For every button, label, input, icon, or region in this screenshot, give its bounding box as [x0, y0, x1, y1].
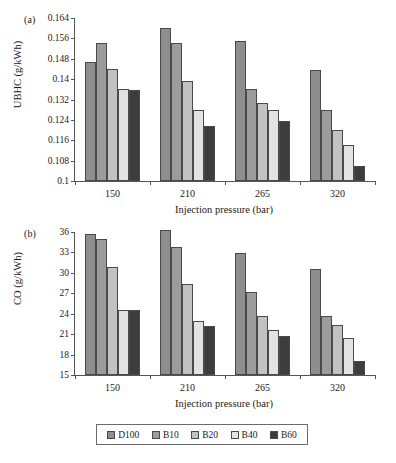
- legend-item-d100[interactable]: D100: [107, 430, 139, 440]
- bar-b60-210: [204, 326, 215, 375]
- figure-container: (a) UBHC (g/kWh) 0.10.1080.1160.1240.132…: [0, 0, 396, 463]
- x-axis-tick-mark: [75, 375, 76, 379]
- bar-b60-320: [354, 166, 365, 181]
- y-axis-tick-label: 0.156: [23, 33, 75, 43]
- y-axis-tick-mark: [71, 18, 75, 19]
- panel-b-x-axis-title: Injection pressure (bar): [74, 398, 374, 409]
- bar-b60-210: [204, 126, 215, 181]
- bar-b10-265: [246, 89, 257, 181]
- y-axis-tick-mark: [71, 355, 75, 356]
- legend-label: B10: [163, 430, 179, 440]
- bar-b20-265: [257, 316, 268, 375]
- bar-d100-150: [85, 62, 96, 181]
- bar-b40-265: [268, 330, 279, 375]
- x-axis-tick-label: 210: [180, 188, 195, 199]
- y-axis-tick-mark: [71, 273, 75, 274]
- bar-b20-210: [182, 284, 193, 375]
- bar-b60-265: [279, 121, 290, 181]
- bar-b10-150: [96, 43, 107, 181]
- bar-b60-150: [129, 310, 140, 375]
- chart-legend: D100B10B20B40B60: [96, 424, 308, 445]
- x-axis-tick-label: 265: [255, 382, 270, 393]
- bar-b20-320: [332, 325, 343, 375]
- x-axis-tick-mark: [150, 181, 151, 185]
- bar-d100-265: [235, 253, 246, 375]
- bar-d100-210: [160, 230, 171, 375]
- bar-d100-320: [310, 70, 321, 181]
- bar-d100-210: [160, 28, 171, 181]
- bar-b20-320: [332, 130, 343, 181]
- y-axis-tick-label: 0.116: [23, 135, 75, 145]
- panel-a-y-axis-title: UBHC (g/kWh): [12, 10, 23, 140]
- y-axis-tick-mark: [71, 38, 75, 39]
- legend-label: B60: [281, 430, 297, 440]
- y-axis-tick-mark: [71, 100, 75, 101]
- x-axis-tick-mark: [225, 375, 226, 379]
- x-axis-tick-mark: [75, 181, 76, 185]
- bar-b40-320: [343, 338, 354, 375]
- legend-swatch-icon: [152, 431, 160, 439]
- y-axis-tick-mark: [71, 293, 75, 294]
- y-axis-tick-mark: [71, 314, 75, 315]
- y-axis-tick-label: 0.14: [23, 74, 75, 84]
- chart-panel-b: (b) CO (g/kWh) 1518212427303336150210265…: [0, 228, 396, 413]
- legend-label: B20: [202, 430, 218, 440]
- legend-item-b10[interactable]: B10: [152, 430, 179, 440]
- chart-panel-a: (a) UBHC (g/kWh) 0.10.1080.1160.1240.132…: [0, 14, 396, 219]
- x-axis-tick-mark: [300, 375, 301, 379]
- bar-b10-150: [96, 239, 107, 375]
- x-axis-tick-label: 265: [255, 188, 270, 199]
- panel-a-x-axis-title: Injection pressure (bar): [74, 204, 374, 215]
- x-axis-tick-label: 320: [330, 188, 345, 199]
- legend-item-b20[interactable]: B20: [191, 430, 218, 440]
- x-axis-tick-mark: [375, 181, 376, 185]
- bar-b40-150: [118, 310, 129, 375]
- bar-b10-320: [321, 110, 332, 181]
- legend-swatch-icon: [191, 431, 199, 439]
- legend-item-b60[interactable]: B60: [270, 430, 297, 440]
- x-axis-tick-mark: [375, 375, 376, 379]
- bar-b20-150: [107, 69, 118, 181]
- y-axis-tick-mark: [71, 161, 75, 162]
- x-axis-tick-mark: [225, 181, 226, 185]
- bar-d100-150: [85, 234, 96, 375]
- y-axis-tick-mark: [71, 59, 75, 60]
- y-axis-tick-label: 0.1: [23, 176, 75, 186]
- y-axis-tick-label: 30: [23, 268, 75, 278]
- x-axis-tick-label: 320: [330, 382, 345, 393]
- y-axis-tick-label: 36: [23, 227, 75, 237]
- y-axis-tick-mark: [71, 140, 75, 141]
- bar-d100-265: [235, 41, 246, 181]
- y-axis-tick-mark: [71, 79, 75, 80]
- y-axis-tick-label: 0.164: [23, 13, 75, 23]
- y-axis-tick-label: 0.148: [23, 54, 75, 64]
- bar-b60-320: [354, 361, 365, 375]
- x-axis-tick-label: 150: [105, 382, 120, 393]
- bar-b40-210: [193, 110, 204, 181]
- y-axis-tick-label: 0.124: [23, 115, 75, 125]
- bar-b10-265: [246, 292, 257, 375]
- x-axis-tick-mark: [150, 375, 151, 379]
- y-axis-tick-label: 33: [23, 247, 75, 257]
- bar-b40-265: [268, 110, 279, 181]
- bar-b40-210: [193, 321, 204, 375]
- panel-b-y-axis-title: CO (g/kWh): [12, 214, 23, 344]
- y-axis-tick-label: 0.108: [23, 156, 75, 166]
- y-axis-tick-mark: [71, 232, 75, 233]
- bar-b60-150: [129, 90, 140, 181]
- legend-swatch-icon: [231, 431, 239, 439]
- x-axis-tick-label: 150: [105, 188, 120, 199]
- bar-b20-210: [182, 81, 193, 181]
- bar-b40-150: [118, 89, 129, 181]
- bar-b60-265: [279, 336, 290, 375]
- bar-b20-265: [257, 103, 268, 181]
- legend-item-b40[interactable]: B40: [231, 430, 258, 440]
- y-axis-tick-mark: [71, 334, 75, 335]
- y-axis-tick-label: 15: [23, 370, 75, 380]
- legend-label: B40: [242, 430, 258, 440]
- bar-b10-210: [171, 43, 182, 181]
- legend-swatch-icon: [107, 431, 115, 439]
- legend-label: D100: [118, 430, 139, 440]
- y-axis-tick-label: 0.132: [23, 95, 75, 105]
- y-axis-tick-label: 21: [23, 329, 75, 339]
